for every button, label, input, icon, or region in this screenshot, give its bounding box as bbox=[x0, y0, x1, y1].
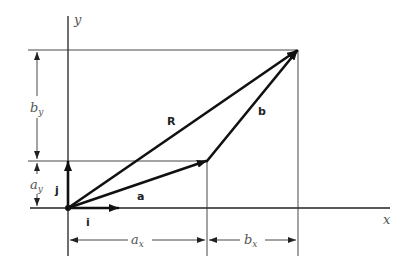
bx-label: bx bbox=[244, 232, 257, 249]
vector-b bbox=[207, 51, 297, 161]
ax-label: ax bbox=[131, 232, 144, 249]
vector-R bbox=[68, 51, 296, 208]
x-axis-label: x bbox=[383, 212, 391, 227]
a-label: a bbox=[137, 190, 144, 203]
vector-diagram: y x by ay ax bx i j a bbox=[0, 0, 413, 269]
j-label: j bbox=[54, 184, 59, 197]
origin-dot bbox=[65, 205, 71, 211]
ay-label: ay bbox=[30, 177, 44, 194]
y-axis-label: y bbox=[73, 12, 82, 27]
i-label: i bbox=[86, 216, 90, 229]
R-label: R bbox=[167, 115, 176, 128]
by-label: by bbox=[30, 100, 44, 117]
b-label: b bbox=[258, 105, 266, 118]
